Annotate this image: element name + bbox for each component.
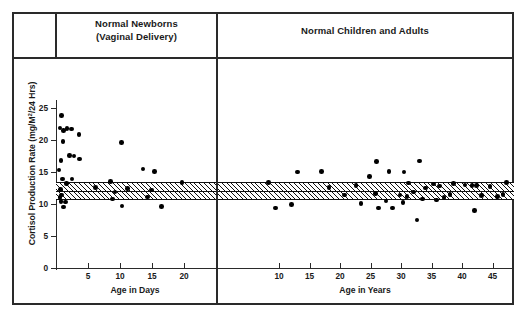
y-tick-label-25: 25 bbox=[22, 103, 48, 113]
figure-frame bbox=[12, 12, 514, 305]
panel-divider bbox=[216, 12, 218, 305]
data-point bbox=[58, 187, 63, 192]
x-tick-5 bbox=[88, 263, 89, 268]
x-tick-label-10: 10 bbox=[109, 271, 131, 281]
x-tick-label-20: 20 bbox=[329, 271, 351, 281]
data-point bbox=[417, 159, 422, 164]
y-tick-label-0: 0 bbox=[22, 263, 48, 273]
data-point bbox=[69, 127, 74, 132]
y-tick-5 bbox=[51, 236, 56, 237]
data-point bbox=[180, 180, 185, 185]
reference-band-mean-line-newborns bbox=[56, 191, 216, 192]
data-point bbox=[152, 169, 157, 174]
panel-title-children-adults-text: Normal Children and Adults bbox=[301, 25, 429, 36]
data-point bbox=[149, 188, 154, 193]
x-tick-35 bbox=[432, 263, 433, 268]
panel-title-newborns-line1: Normal Newborns bbox=[95, 18, 178, 29]
x-axis-caption-newborns: Age in Days bbox=[75, 285, 195, 295]
data-point bbox=[448, 192, 453, 197]
data-point bbox=[405, 194, 410, 199]
data-point bbox=[501, 192, 506, 197]
data-point bbox=[108, 179, 113, 184]
x-tick-10 bbox=[279, 263, 280, 268]
y-tick-label-15: 15 bbox=[22, 167, 48, 177]
data-point bbox=[495, 194, 500, 199]
data-point bbox=[390, 206, 395, 211]
x-tick-25 bbox=[371, 263, 372, 268]
x-tick-label-15: 15 bbox=[299, 271, 321, 281]
x-tick-label-20: 20 bbox=[173, 271, 195, 281]
header-divider bbox=[12, 57, 514, 59]
data-point bbox=[319, 169, 324, 174]
data-point bbox=[474, 183, 479, 188]
data-point bbox=[125, 186, 130, 191]
data-point bbox=[373, 191, 378, 196]
data-point bbox=[479, 193, 484, 198]
data-point bbox=[376, 206, 381, 211]
x-axis-caption-children-adults: Age in Years bbox=[280, 285, 450, 295]
data-point bbox=[387, 169, 392, 174]
data-point bbox=[470, 183, 475, 188]
data-point bbox=[354, 183, 359, 188]
data-point bbox=[504, 180, 509, 185]
x-tick-20 bbox=[340, 263, 341, 268]
data-point bbox=[93, 185, 98, 190]
x-tick-label-30: 30 bbox=[390, 271, 412, 281]
x-tick-10 bbox=[120, 263, 121, 268]
data-point bbox=[145, 195, 150, 200]
x-tick-15 bbox=[152, 263, 153, 268]
x-tick-40 bbox=[462, 263, 463, 268]
data-point bbox=[359, 201, 364, 206]
y-tick-25 bbox=[51, 108, 56, 109]
y-tick-label-20: 20 bbox=[22, 135, 48, 145]
x-axis-line-newborns bbox=[56, 268, 216, 269]
x-tick-45 bbox=[493, 263, 494, 268]
data-point bbox=[420, 197, 425, 202]
y-tick-20 bbox=[51, 140, 56, 141]
x-tick-label-25: 25 bbox=[360, 271, 382, 281]
x-tick-label-35: 35 bbox=[421, 271, 443, 281]
y-tick-15 bbox=[51, 172, 56, 173]
data-point bbox=[451, 181, 456, 186]
x-tick-20 bbox=[184, 263, 185, 268]
data-point bbox=[64, 181, 69, 186]
cortisol-production-scatter-figure: Normal Newborns (Vaginal Delivery) Norma… bbox=[0, 0, 527, 320]
data-point bbox=[367, 174, 372, 179]
data-point bbox=[61, 139, 66, 144]
y-axis-label-exponent: 2 bbox=[27, 113, 33, 116]
data-point bbox=[273, 206, 278, 211]
data-point bbox=[110, 197, 115, 202]
data-point bbox=[411, 190, 416, 195]
data-point bbox=[342, 193, 347, 198]
x-tick-label-40: 40 bbox=[451, 271, 473, 281]
y-tick-label-10: 10 bbox=[22, 199, 48, 209]
x-tick-label-45: 45 bbox=[482, 271, 504, 281]
data-point bbox=[61, 128, 66, 133]
x-tick-label-10: 10 bbox=[268, 271, 290, 281]
data-point bbox=[472, 208, 477, 213]
x-tick-label-15: 15 bbox=[141, 271, 163, 281]
data-point bbox=[289, 202, 294, 207]
data-point bbox=[59, 113, 64, 118]
data-point bbox=[266, 180, 271, 185]
x-axis-line-children-adults bbox=[218, 268, 514, 269]
data-point bbox=[119, 140, 124, 145]
reference-band-mean-line-children-adults bbox=[218, 191, 514, 192]
panel-title-newborns-line2: (Vaginal Delivery) bbox=[96, 31, 177, 42]
data-point bbox=[384, 199, 389, 204]
panel-title-children-adults: Normal Children and Adults bbox=[218, 25, 512, 38]
x-tick-label-5: 5 bbox=[77, 271, 99, 281]
data-point bbox=[442, 195, 447, 200]
data-point bbox=[295, 170, 300, 175]
y-tick-10 bbox=[51, 204, 56, 205]
x-tick-15 bbox=[310, 263, 311, 268]
y-tick-label-5: 5 bbox=[22, 231, 48, 241]
x-tick-30 bbox=[401, 263, 402, 268]
data-point bbox=[159, 204, 164, 209]
data-point bbox=[423, 186, 428, 191]
data-point bbox=[374, 159, 379, 164]
data-point bbox=[406, 181, 411, 186]
data-point bbox=[77, 132, 82, 137]
header-corner-cell bbox=[12, 12, 57, 57]
data-point bbox=[327, 185, 332, 190]
